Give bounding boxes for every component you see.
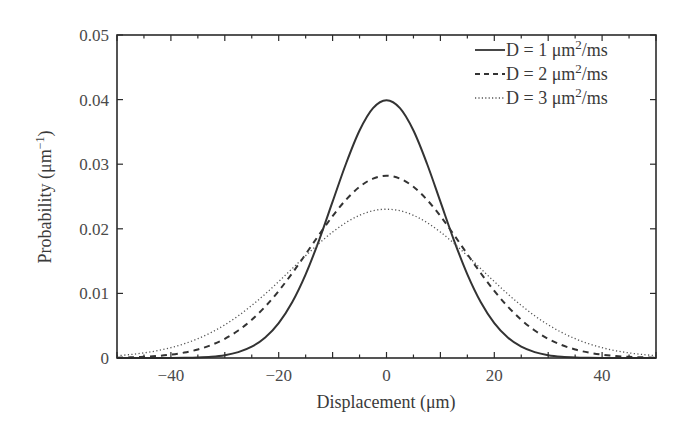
series-line-dotted (117, 209, 656, 355)
y-tick-labels: 00.010.020.030.040.05 (79, 26, 109, 368)
y-tick-label: 0.03 (79, 155, 109, 174)
chart: −40−2002040 00.010.020.030.040.05 Displa… (0, 0, 688, 431)
plot-curves (117, 100, 656, 358)
series-line-dashed (117, 176, 656, 358)
legend-item-d1: D = 1 μm2/ms (475, 37, 608, 60)
x-tick-label: 0 (382, 366, 391, 385)
svg-text:D = 1 μm2/ms: D = 1 μm2/ms (506, 37, 608, 60)
legend-item-d3: D = 3 μm2/ms (475, 85, 608, 108)
legend-item-d2: D = 2 μm2/ms (475, 61, 608, 84)
y-tick-label: 0.05 (79, 26, 109, 45)
y-tick-label: 0.02 (79, 220, 109, 239)
x-tick-label: −20 (265, 366, 292, 385)
x-axis-label: Displacement (μm) (316, 392, 455, 413)
legend-label-d1: D = 1 μm (506, 40, 575, 60)
x-tick-labels: −40−2002040 (158, 366, 611, 385)
series-line-solid (117, 100, 656, 358)
legend: D = 1 μm2/ms D = 2 μm2/ms D = 3 μm2/ms (475, 37, 608, 108)
svg-text:D = 2 μm2/ms: D = 2 μm2/ms (506, 61, 608, 84)
y-tick-label: 0.01 (79, 284, 109, 303)
legend-label-d2: D = 2 μm (506, 64, 575, 84)
y-tick-label: 0.04 (79, 91, 109, 110)
x-tick-label: 20 (486, 366, 503, 385)
y-tick-label: 0 (101, 349, 110, 368)
x-tick-label: 40 (594, 366, 611, 385)
x-tick-label: −40 (158, 366, 185, 385)
svg-text:D = 3 μm2/ms: D = 3 μm2/ms (506, 85, 608, 108)
y-axis-label: Probability (μm−1) (33, 131, 56, 264)
legend-label-d3: D = 3 μm (506, 88, 575, 108)
